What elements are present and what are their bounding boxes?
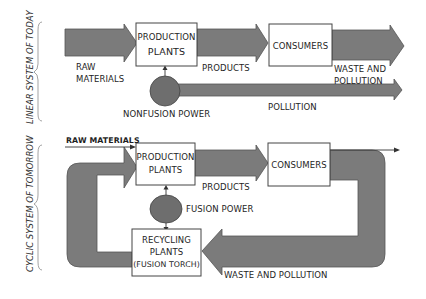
recycled-materials-loop-arrow — [67, 147, 137, 267]
cyclic-products-arrow — [195, 145, 268, 181]
nonfusion-power-circle — [150, 76, 180, 106]
recycling-label-line1: RECYCLING — [142, 235, 191, 245]
cyclic-consumers-label: CONSUMERS — [271, 160, 327, 170]
fusion-up-arrowhead-icon — [164, 185, 169, 190]
production-plants-label-line1: PRODUCTION — [137, 32, 195, 42]
raw-materials-label-line2: MATERIALS — [76, 74, 124, 84]
output-arrowhead-icon — [394, 148, 400, 153]
production-plants-box — [136, 23, 197, 66]
linear-system: PRODUCTION PLANTS CONSUMERS RAW MATERIAL… — [65, 23, 404, 119]
products-arrow — [197, 24, 268, 62]
raw-materials-label-line1: RAW — [76, 62, 96, 72]
consumers-label: CONSUMERS — [273, 41, 329, 51]
cyclic-waste-label: WASTE AND POLLUTION — [224, 270, 328, 280]
recycling-label-line3: (FUSION TORCH) — [133, 260, 200, 269]
cyclic-system-brace — [34, 145, 42, 270]
linear-system-side-label-group: LINEAR SYSTEM OF TODAY — [25, 10, 42, 124]
cyclic-system-side-label-group: CYCLIC SYSTEM OF TOMORROW — [25, 135, 42, 272]
waste-and-pollution-arrow — [332, 25, 404, 66]
linear-system-label: LINEAR SYSTEM OF TODAY — [25, 10, 35, 124]
recycling-label-line2: PLANTS — [150, 247, 183, 257]
fusion-power-label: FUSION POWER — [186, 204, 253, 214]
cyclic-products-label: PRODUCTS — [202, 182, 250, 192]
production-plants-label-line2: PLANTS — [148, 46, 185, 57]
cyclic-system-label: CYCLIC SYSTEM OF TOMORROW — [25, 135, 35, 272]
pollution-label: POLLUTION — [268, 102, 317, 112]
waste-label-line2: POLLUTION — [334, 76, 383, 86]
waste-label-line1: WASTE AND — [334, 64, 386, 74]
cyclic-production-plants-box — [136, 143, 195, 185]
raw-materials-arrow — [65, 24, 137, 62]
raw-materials-arrowhead-icon — [130, 145, 136, 150]
cyclic-system: PRODUCTION PLANTS CONSUMERS RECYCLING PL… — [65, 136, 400, 280]
fusion-power-circle — [150, 195, 182, 223]
diagram-canvas: LINEAR SYSTEM OF TODAY CYCLIC SYSTEM OF … — [0, 0, 426, 299]
linear-system-brace — [34, 22, 42, 121]
cyclic-production-plants-label-line1: PRODUCTION — [136, 152, 194, 162]
cyclic-raw-materials-label: RAW MATERIALS — [66, 136, 140, 145]
cyclic-production-plants-label-line2: PLANTS — [149, 165, 182, 175]
products-label: PRODUCTS — [202, 63, 250, 73]
nonfusion-power-label: NONFUSION POWER — [123, 109, 210, 119]
